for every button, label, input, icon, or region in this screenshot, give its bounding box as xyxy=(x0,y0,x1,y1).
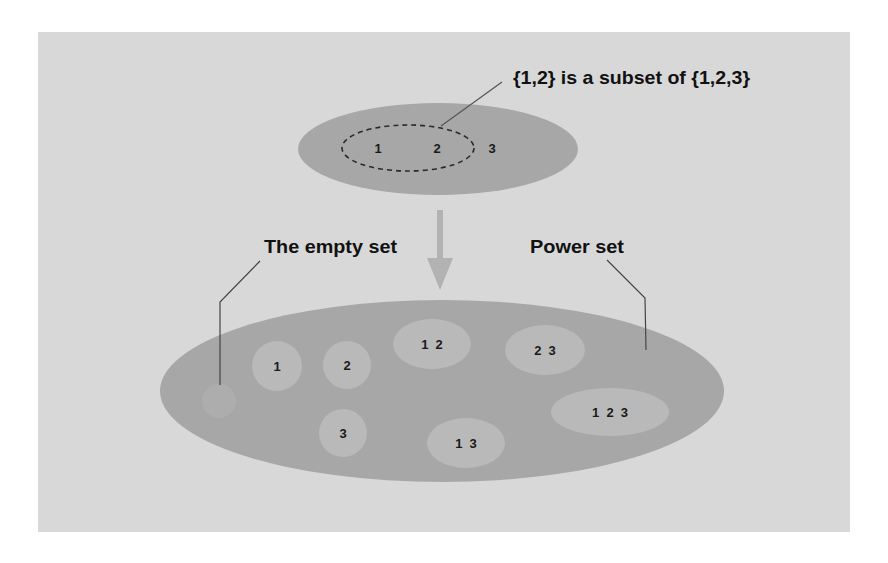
member-12-label: 1 2 xyxy=(421,337,443,352)
top-element-2: 2 xyxy=(433,141,440,156)
down-arrow-icon xyxy=(427,210,453,290)
empty-set-label: The empty set xyxy=(264,237,397,257)
member-123-label: 1 2 3 xyxy=(592,405,628,420)
top-element-3: 3 xyxy=(488,141,495,156)
member-2-label: 2 xyxy=(343,358,350,373)
top-element-1: 1 xyxy=(374,141,381,156)
power-set-label: Power set xyxy=(530,237,624,257)
member-13-label: 1 3 xyxy=(455,436,477,451)
member-1-label: 1 xyxy=(273,359,280,374)
member-3-label: 3 xyxy=(339,426,346,441)
power-set-diagram: 1 2 3 {1,2} is a subset of {1,2,3} The e… xyxy=(0,0,888,563)
subset-caption: {1,2} is a subset of {1,2,3} xyxy=(513,67,751,88)
member-23-label: 2 3 xyxy=(534,343,556,358)
empty-set-circle xyxy=(202,384,236,418)
